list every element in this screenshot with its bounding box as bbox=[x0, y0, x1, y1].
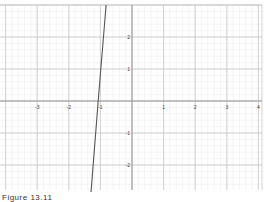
data-series bbox=[91, 5, 106, 192]
svg-text:-2: -2 bbox=[67, 104, 72, 110]
svg-text:1: 1 bbox=[127, 66, 130, 72]
svg-text:4: 4 bbox=[257, 104, 260, 110]
svg-text:2: 2 bbox=[194, 104, 197, 110]
minor-grid bbox=[0, 5, 262, 190]
svg-text:1: 1 bbox=[162, 104, 165, 110]
axes bbox=[0, 5, 262, 190]
svg-text:-1: -1 bbox=[126, 130, 131, 136]
svg-text:2: 2 bbox=[127, 34, 130, 40]
svg-text:-2: -2 bbox=[126, 162, 131, 168]
svg-text:-1: -1 bbox=[98, 104, 103, 110]
svg-text:-3: -3 bbox=[35, 104, 40, 110]
major-grid bbox=[0, 5, 262, 190]
line-plot: -3-2-1123421-1-2 bbox=[0, 0, 264, 192]
figure-caption: Figure 13.11 bbox=[2, 193, 52, 202]
svg-text:3: 3 bbox=[225, 104, 228, 110]
